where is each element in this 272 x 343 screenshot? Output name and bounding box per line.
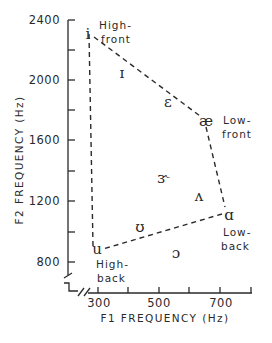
boundary-high-front-to-low-front	[94, 37, 200, 116]
label-low-front-1: Low-	[223, 114, 251, 126]
vowel-u: u	[92, 240, 102, 258]
vowel-open-o: ɔ	[172, 244, 180, 262]
vowel-eh: ɛ	[164, 93, 172, 111]
y-tick-label: 2000	[29, 73, 60, 87]
x-tick-label: 500	[147, 296, 170, 310]
x-axis-break-mark	[78, 288, 84, 296]
vowel-formant-chart: 2400 2000 1600 1200 800 F2 FREQUENCY (Hz…	[0, 0, 272, 343]
vowel-points: i ɪ ɛ æ ɝ ʌ ɑ ʊ u ɔ	[86, 25, 235, 262]
vowel-script-a: ɑ	[224, 206, 234, 224]
y-tick-label: 1200	[29, 194, 60, 208]
label-high-back-2: back	[97, 272, 126, 284]
y-axis: 2400 2000 1600 1200 800 F2 FREQUENCY (Hz…	[13, 13, 78, 291]
axis-corner	[64, 283, 78, 291]
vowel-ae: æ	[199, 112, 213, 130]
label-high-front-1: High-	[99, 19, 132, 31]
x-tick-label: 300	[87, 296, 110, 310]
boundary-front-high-to-back-high	[89, 34, 93, 246]
y-tick-label: 800	[37, 255, 60, 269]
x-axis-break-mark	[84, 288, 90, 296]
x-tick-label: 700	[209, 296, 232, 310]
vowel-er: ɝ	[157, 169, 170, 187]
label-high-back-1: High-	[96, 258, 129, 270]
label-low-front-2: front	[222, 128, 252, 140]
label-high-front-2: front	[101, 33, 131, 45]
y-tick-label: 1600	[29, 133, 60, 147]
vowel-boundary	[89, 34, 225, 249]
y-tick-label: 2400	[29, 13, 60, 27]
x-axis: 300 500 700 F1 FREQUENCY (Hz)	[78, 287, 252, 324]
label-low-back-2: back	[221, 240, 250, 252]
x-axis-title: F1 FREQUENCY (Hz)	[101, 312, 230, 324]
label-low-back-1: Low-	[223, 226, 251, 238]
vowel-ih: ɪ	[120, 64, 125, 82]
vowel-upsilon: ʊ	[135, 218, 144, 236]
y-axis-title: F2 FREQUENCY (Hz)	[13, 96, 25, 225]
vowel-i: i	[86, 25, 91, 43]
boundary-low-back-to-high-back	[103, 214, 222, 249]
vowel-wedge: ʌ	[194, 187, 204, 205]
